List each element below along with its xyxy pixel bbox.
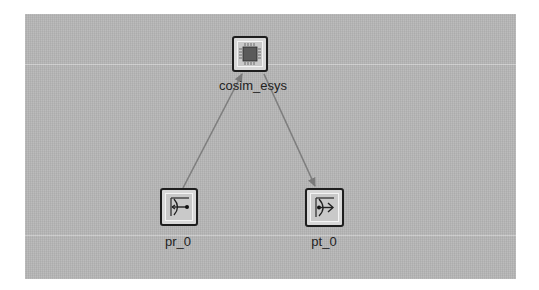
port-receive-icon — [162, 190, 196, 224]
node-pr-0-box[interactable] — [160, 188, 198, 226]
port-transmit-icon — [307, 190, 342, 225]
node-label: pr_0 — [165, 234, 191, 249]
diagram-canvas[interactable] — [25, 14, 516, 279]
canvas-band — [25, 64, 516, 65]
node-label: pt_0 — [311, 234, 336, 249]
node-cosim-esys-box[interactable] — [232, 36, 268, 72]
node-pt-0-box[interactable] — [305, 188, 344, 227]
canvas-band — [25, 235, 516, 236]
chip-icon — [234, 38, 266, 70]
node-label: cosim_esys — [219, 78, 287, 93]
